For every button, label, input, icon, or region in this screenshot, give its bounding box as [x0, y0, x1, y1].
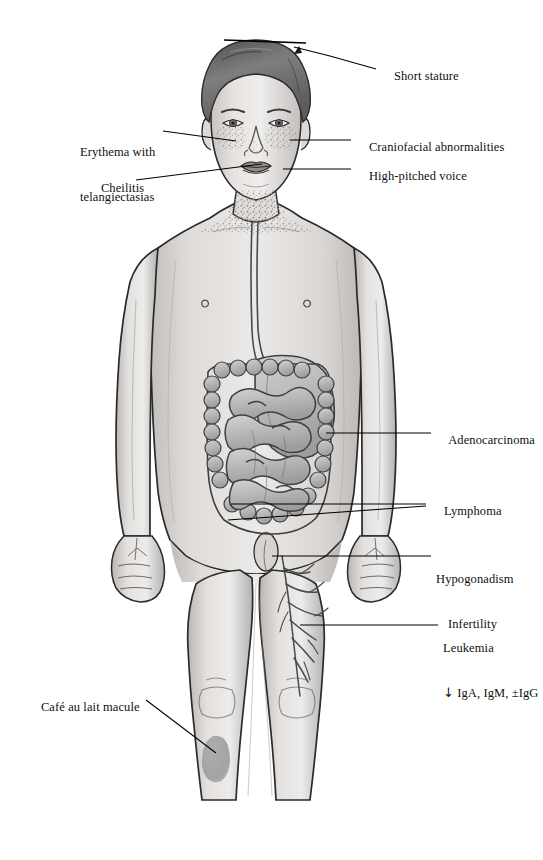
label-erythema-line1: Erythema with	[80, 145, 155, 160]
hand-left	[112, 536, 165, 602]
label-cheilitis: Cheilitis	[88, 166, 144, 212]
label-cafe-au-lait-macule: Café au lait macule	[28, 685, 140, 731]
label-leukemia: Leukemia ↓ IgA, IgM, ±IgG	[443, 610, 538, 732]
label-high-pitched-voice: High-pitched voice	[356, 154, 467, 200]
label-leukemia-text: Leukemia	[443, 641, 538, 656]
label-adenocarcinoma-text: Adenocarcinoma	[448, 433, 535, 447]
hand-right	[348, 536, 401, 602]
genitalia	[254, 532, 278, 571]
label-adenocarcinoma: Adenocarcinoma	[436, 418, 535, 464]
label-lymphoma-text: Lymphoma	[444, 504, 502, 518]
label-leukemia-ig-line: ↓ IgA, IgM, ±IgG	[443, 686, 538, 701]
label-craniofacial-abnormalities-text: Craniofacial abnormalities	[369, 140, 505, 154]
head-group	[202, 40, 311, 200]
clinical-features-figure: Short stature Craniofacial abnormalities…	[0, 0, 543, 860]
lips	[241, 162, 271, 174]
label-high-pitched-voice-text: High-pitched voice	[369, 169, 467, 183]
label-hypogonadism-line1: Hypogonadism	[436, 572, 514, 587]
label-lymphoma: Lymphoma	[431, 489, 502, 535]
leader-short-stature	[294, 47, 376, 69]
cafe-au-lait-patch	[202, 736, 230, 783]
down-arrow-icon: ↓	[443, 685, 454, 700]
label-short-stature-text: Short stature	[394, 69, 459, 83]
label-leukemia-ig-text: IgA, IgM, ±IgG	[457, 686, 538, 700]
label-cheilitis-text: Cheilitis	[101, 181, 144, 195]
label-short-stature: Short stature	[381, 54, 459, 100]
label-cafe-au-lait-macule-text: Café au lait macule	[41, 700, 140, 714]
